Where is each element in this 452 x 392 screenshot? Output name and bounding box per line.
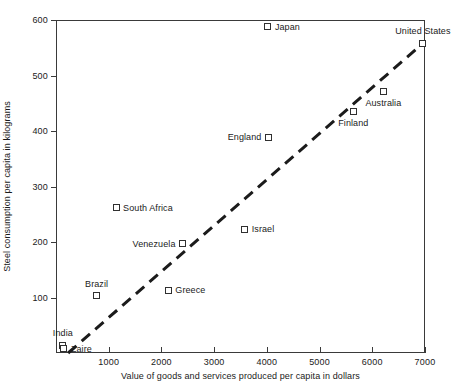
data-point-label: Israel — [252, 224, 275, 234]
y-tick-label: 200 — [32, 237, 48, 247]
x-axis-title: Value of goods and services produced per… — [56, 371, 425, 381]
x-tick-mark — [109, 347, 110, 353]
square-marker-icon — [93, 292, 100, 299]
y-tick-mark — [51, 242, 57, 243]
x-tick-mark — [425, 347, 426, 353]
x-tick-label: 1000 — [98, 357, 119, 367]
x-tick-label: 4000 — [256, 357, 277, 367]
y-tick-mark — [51, 20, 57, 21]
trend-line — [56, 20, 425, 353]
square-marker-icon — [380, 88, 387, 95]
data-point-label: India — [53, 328, 73, 338]
square-marker-icon — [350, 108, 357, 115]
trend-line-path — [68, 43, 423, 353]
x-tick-mark — [161, 347, 162, 353]
data-point-label: Greece — [175, 285, 205, 295]
square-marker-icon — [60, 345, 67, 352]
y-axis-title: Steel consumption per capita in kilogram… — [0, 20, 14, 353]
x-tick-label: 6000 — [362, 357, 383, 367]
y-axis-title-text: Steel consumption per capita in kilogram… — [0, 20, 14, 353]
y-tick-label: 400 — [32, 126, 48, 136]
data-point-label: Finland — [338, 118, 368, 128]
square-marker-icon — [264, 23, 271, 30]
data-point-label: Australia — [365, 98, 401, 108]
y-tick-mark — [51, 298, 57, 299]
y-tick-label: 100 — [32, 293, 48, 303]
x-tick-label: 5000 — [309, 357, 330, 367]
x-tick-mark — [372, 347, 373, 353]
data-point-label: England — [228, 132, 262, 142]
data-point-label: Brazil — [85, 279, 108, 289]
square-marker-icon — [113, 204, 120, 211]
y-tick-mark — [51, 131, 57, 132]
x-tick-mark — [320, 347, 321, 353]
x-tick-mark — [267, 347, 268, 353]
data-point-label: South Africa — [123, 203, 173, 213]
square-marker-icon — [179, 240, 186, 247]
data-point-label: Venezuela — [133, 239, 176, 249]
data-point-label: United States — [395, 26, 450, 36]
square-marker-icon — [165, 287, 172, 294]
y-tick-label: 600 — [32, 15, 48, 25]
y-tick-label: 300 — [32, 182, 48, 192]
y-tick-mark — [51, 76, 57, 77]
data-point-label: Zaire — [71, 344, 92, 354]
data-point-label: Japan — [275, 22, 300, 32]
square-marker-icon — [265, 134, 272, 141]
plot-area: JapanUnited StatesAustraliaFinlandEnglan… — [56, 20, 425, 353]
y-tick-mark — [51, 187, 57, 188]
x-tick-mark — [214, 347, 215, 353]
y-tick-label: 500 — [32, 71, 48, 81]
x-tick-label: 7000 — [415, 357, 436, 367]
scatter-plot-figure: JapanUnited StatesAustraliaFinlandEnglan… — [0, 0, 452, 392]
x-tick-label: 2000 — [151, 357, 172, 367]
square-marker-icon — [419, 40, 426, 47]
square-marker-icon — [241, 226, 248, 233]
x-tick-label: 3000 — [204, 357, 225, 367]
